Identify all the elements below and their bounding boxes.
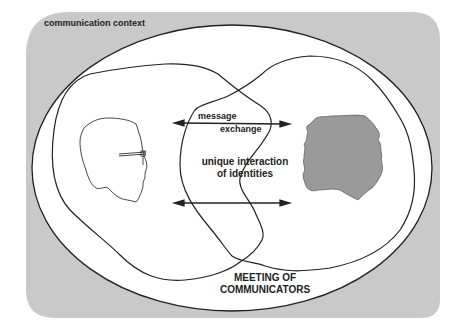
exchange-label: exchange [220, 125, 262, 134]
unique-interaction-line2: of identities [192, 168, 298, 180]
right-head-silhouette [303, 115, 382, 200]
meeting-of-communicators-label: MEETING OF COMMUNICATORS [210, 272, 320, 296]
unique-interaction-line1: unique interaction [192, 156, 298, 168]
message-label: message [198, 112, 237, 121]
meeting-line1: MEETING OF [210, 272, 320, 284]
communication-context-label: communication context [44, 19, 145, 28]
meeting-line2: COMMUNICATORS [210, 284, 320, 296]
unique-interaction-label: unique interaction of identities [192, 156, 298, 180]
communication-diagram: communication context message exchange u… [0, 0, 462, 323]
